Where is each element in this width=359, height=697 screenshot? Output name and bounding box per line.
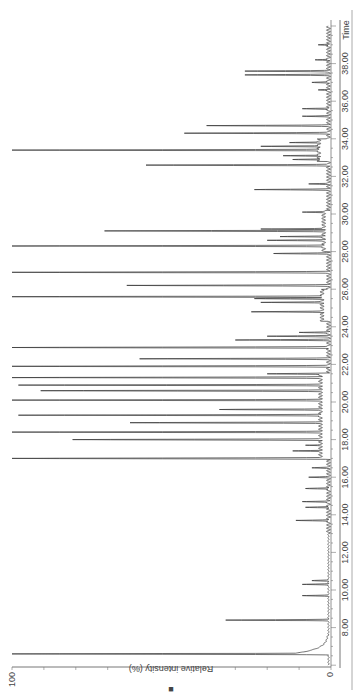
marker-symbol: ■ [168,684,173,694]
time-axis-tick-labels: 8.0010.0012.0014.0016.0018.0020.0022.002… [340,52,350,636]
time-tick-label: 22.00 [340,353,350,376]
time-tick-label: 20.00 [340,391,350,414]
time-tick-label: 30.00 [340,203,350,226]
chromatogram-trace [12,26,330,665]
time-tick-label: 38.00 [340,52,350,75]
time-tick-label: 34.00 [340,128,350,151]
intensity-axis-label: Relative intensity (%) [129,664,214,674]
time-tick-label: 36.00 [340,90,350,113]
time-axis-label: Time [341,20,351,40]
time-tick-label: 26.00 [340,278,350,301]
time-tick-label: 8.00 [340,619,350,637]
intensity-tick-0: 0 [325,672,335,677]
time-tick-label: 12.00 [340,541,350,564]
intensity-tick-100: 100 [7,672,17,687]
time-tick-label: 32.00 [340,165,350,188]
time-tick-label: 24.00 [340,316,350,339]
time-tick-label: 18.00 [340,428,350,451]
time-tick-label: 14.00 [340,504,350,527]
time-axis-ticks [331,20,336,667]
time-tick-label: 10.00 [340,579,350,602]
time-tick-label: 16.00 [340,466,350,489]
time-tick-label: 28.00 [340,240,350,263]
chromatogram-chart: 8.0010.0012.0014.0016.0018.0020.0022.002… [0,0,359,697]
